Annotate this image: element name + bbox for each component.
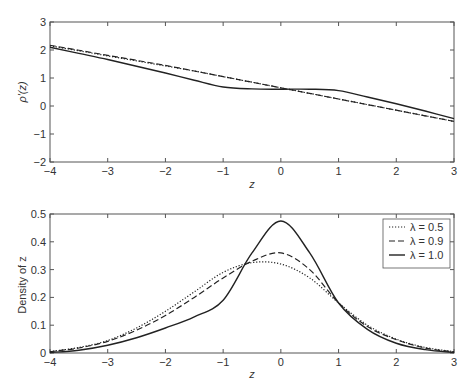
- x-tick-label: 3: [451, 165, 457, 177]
- x-tick-label: −2: [159, 165, 172, 177]
- y-tick-label: 0.2: [31, 291, 46, 303]
- top-plot: −4−3−2−10123 −2−10123 z ρ'(z): [16, 16, 457, 190]
- series-line-dashed: [50, 45, 454, 121]
- y-tick-label: 0.3: [31, 264, 46, 276]
- x-tick-label: −1: [217, 165, 230, 177]
- x-tick-label: −3: [101, 165, 114, 177]
- x-tick-label: 0: [278, 356, 284, 368]
- y-tick-label: 0.1: [31, 319, 46, 331]
- x-tick-label: 1: [336, 356, 342, 368]
- y-tick-label: −1: [33, 128, 46, 140]
- series-line-solid: [50, 47, 454, 118]
- series-line-dotted: [50, 46, 454, 122]
- top-y-axis-label: ρ'(z): [16, 81, 28, 104]
- top-plot-frame: [50, 22, 454, 162]
- x-tick-label: −2: [159, 356, 172, 368]
- y-tick-label: −2: [33, 156, 46, 168]
- top-x-axis-label: z: [248, 178, 255, 190]
- y-tick-label: 0: [40, 347, 46, 359]
- legend-label: λ = 0.9: [410, 235, 443, 247]
- bottom-x-axis-label: z: [248, 368, 255, 380]
- top-x-ticks: −4−3−2−10123: [44, 22, 457, 177]
- bottom-y-axis-label: Density of z: [16, 256, 28, 313]
- legend: λ = 0.5λ = 0.9λ = 1.0: [383, 219, 450, 268]
- x-tick-label: 2: [393, 165, 399, 177]
- x-tick-label: 2: [393, 356, 399, 368]
- y-tick-label: 0.4: [31, 236, 46, 248]
- y-tick-label: 0: [40, 100, 46, 112]
- legend-label: λ = 0.5: [410, 221, 443, 233]
- bottom-y-axis-label-text: Density of z: [16, 256, 28, 313]
- y-tick-label: 0.5: [31, 208, 46, 220]
- top-y-ticks: −2−10123: [33, 16, 454, 168]
- x-tick-label: −1: [217, 356, 230, 368]
- y-tick-label: 2: [40, 44, 46, 56]
- x-tick-label: −3: [101, 356, 114, 368]
- x-tick-label: 3: [451, 356, 457, 368]
- x-tick-label: 0: [278, 165, 284, 177]
- x-tick-label: 1: [336, 165, 342, 177]
- bottom-plot: −4−3−2−10123 00.10.20.30.40.5 z Density …: [16, 208, 457, 380]
- y-tick-label: 1: [40, 72, 46, 84]
- top-curves: [50, 45, 454, 121]
- y-tick-label: 3: [40, 16, 46, 28]
- figure: −4−3−2−10123 −2−10123 z ρ'(z) −4−3−2−101…: [0, 0, 474, 388]
- legend-label: λ = 1.0: [410, 249, 443, 261]
